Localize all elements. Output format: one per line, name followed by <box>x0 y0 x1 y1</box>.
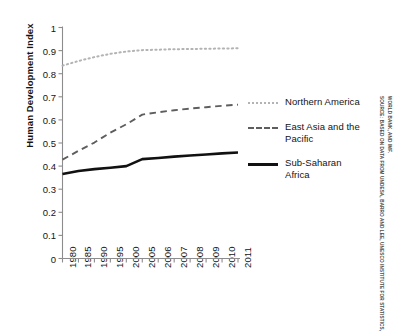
chart-legend: Northern AmericaEast Asia and the Pacifi… <box>248 96 368 193</box>
legend-item-label: East Asia and the Pacific <box>285 121 368 144</box>
source-note: SOURCE: BASED ON DATA FROM UNDESA, BARRO… <box>376 96 398 296</box>
legend-item: Sub-Saharan Africa <box>248 157 368 180</box>
legend-item-label: Northern America <box>285 96 360 108</box>
axis-lines <box>59 27 241 263</box>
source-note-line-2: WORLD BANK, AND IMF. <box>387 96 392 153</box>
legend-item: Northern America <box>248 96 368 108</box>
solid-line-swatch-icon <box>248 157 278 169</box>
dashed-line-swatch-icon <box>248 121 278 133</box>
series-line-0 <box>63 48 239 65</box>
series-line-1 <box>63 105 239 160</box>
source-note-line-1: SOURCE: BASED ON DATA FROM UNDESA, BARRO… <box>379 96 384 331</box>
data-series-group <box>63 48 239 174</box>
series-line-2 <box>63 152 239 173</box>
legend-item: East Asia and the Pacific <box>248 121 368 144</box>
legend-item-label: Sub-Saharan Africa <box>285 157 368 180</box>
dotted-line-swatch-icon <box>248 96 278 108</box>
